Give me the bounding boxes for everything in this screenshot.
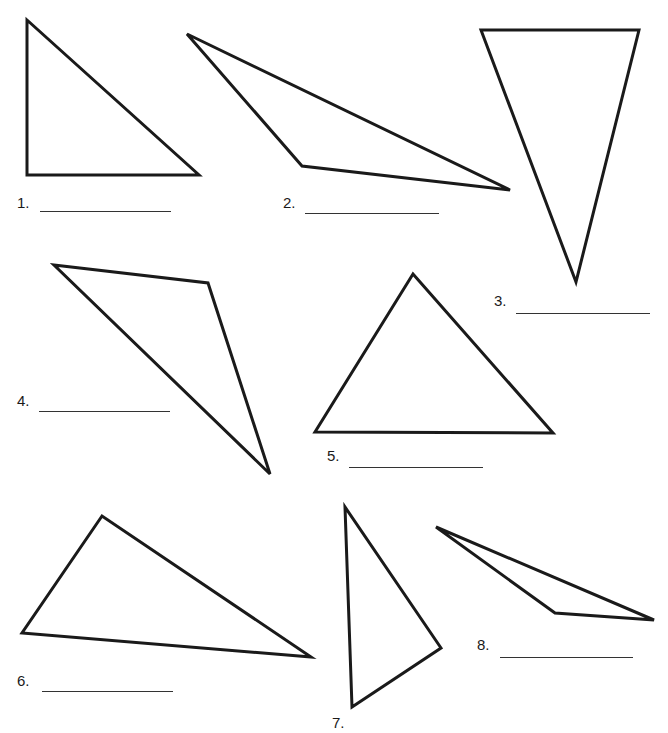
item-number-1: 1. <box>17 195 30 210</box>
answer-blank-3[interactable] <box>516 313 650 314</box>
triangle-worksheet-figure <box>0 0 668 733</box>
answer-blank-1[interactable] <box>40 211 171 212</box>
triangle-3 <box>481 30 639 282</box>
triangle-5 <box>315 274 553 433</box>
triangle-6 <box>22 516 311 657</box>
answer-blank-6[interactable] <box>42 691 173 692</box>
answer-blank-2[interactable] <box>305 213 439 214</box>
item-number-8: 8. <box>477 637 490 652</box>
triangle-7 <box>345 507 441 707</box>
answer-blank-8[interactable] <box>500 657 633 658</box>
item-number-4: 4. <box>17 393 30 408</box>
triangle-8 <box>436 527 654 620</box>
item-number-6: 6. <box>17 673 30 688</box>
item-number-3: 3. <box>494 293 507 308</box>
item-number-7: 7. <box>332 715 345 730</box>
answer-blank-5[interactable] <box>349 467 483 468</box>
answer-blank-4[interactable] <box>39 411 170 412</box>
triangle-4 <box>54 265 270 474</box>
triangle-1 <box>27 20 199 175</box>
item-number-2: 2. <box>283 195 296 210</box>
triangle-2 <box>187 34 510 190</box>
item-number-5: 5. <box>327 448 340 463</box>
